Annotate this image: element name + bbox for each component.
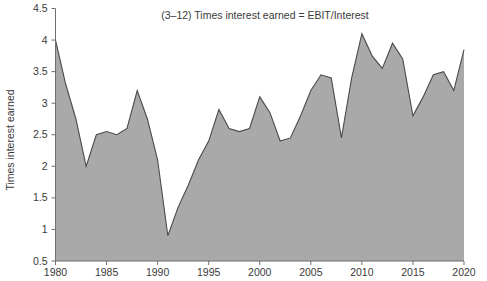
x-axis-tick-labels: 198019851990199520002005201020152020 (44, 266, 476, 278)
x-tick-label: 1985 (95, 266, 119, 278)
y-tick-label: 4.5 (33, 2, 48, 14)
y-tick-label: 1 (42, 223, 48, 235)
y-tick-label: 2 (42, 160, 48, 172)
x-tick-label: 1980 (44, 266, 68, 278)
x-tick-label: 1995 (197, 266, 221, 278)
x-tick-label: 1990 (146, 266, 170, 278)
y-axis-title: Times interest earned (4, 89, 16, 190)
x-tick-label: 2010 (350, 266, 374, 278)
x-tick-label: 2020 (452, 266, 476, 278)
chart-container: 0.511.522.533.544.5 19801985199019952000… (0, 0, 487, 281)
y-tick-label: 0.5 (33, 255, 48, 267)
x-tick-label: 2000 (248, 266, 272, 278)
times-interest-earned-area-chart: 0.511.522.533.544.5 19801985199019952000… (0, 0, 487, 281)
chart-title: (3–12) Times interest earned = EBIT/Inte… (161, 9, 369, 21)
y-tick-label: 1.5 (33, 191, 48, 203)
y-tick-label: 3 (42, 97, 48, 109)
y-tick-label: 3.5 (33, 65, 48, 77)
x-tick-label: 2005 (299, 266, 323, 278)
y-tick-label: 2.5 (33, 128, 48, 140)
x-tick-label: 2015 (401, 266, 425, 278)
y-tick-label: 4 (42, 34, 48, 46)
